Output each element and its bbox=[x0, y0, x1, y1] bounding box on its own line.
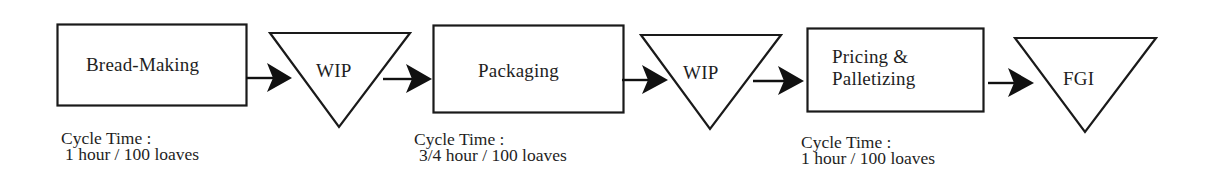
inventory-label-wip-1: WIP bbox=[316, 60, 351, 81]
flow-arrow-1 bbox=[246, 63, 292, 92]
cycle-time-value: 1 hour / 100 loaves bbox=[801, 150, 935, 166]
process-label-pricing-palletizing: Pricing & Palletizing bbox=[832, 46, 915, 90]
process-label-bread-making: Bread-Making bbox=[86, 54, 199, 75]
cycle-time-packaging: Cycle Time : 3/4 hour / 100 loaves bbox=[414, 131, 567, 163]
inventory-label-wip-2: WIP bbox=[683, 62, 718, 83]
cycle-time-bread-making: Cycle Time : 1 hour / 100 loaves bbox=[61, 130, 199, 162]
cycle-time-value: 1 hour / 100 loaves bbox=[61, 146, 199, 162]
cycle-time-value: 3/4 hour / 100 loaves bbox=[414, 147, 567, 163]
cycle-time-pricing-palletizing: Cycle Time : 1 hour / 100 loaves bbox=[801, 134, 935, 166]
inventory-label-fgi: FGI bbox=[1063, 68, 1094, 89]
process-label-packaging: Packaging bbox=[478, 60, 559, 81]
diagram-shapes bbox=[0, 0, 1210, 194]
flow-arrow-3 bbox=[622, 65, 668, 94]
flow-arrow-5 bbox=[988, 68, 1034, 97]
flow-arrow-4 bbox=[753, 66, 804, 95]
process-flow-diagram: Bread-Making WIP Packaging WIP Pricing &… bbox=[0, 0, 1210, 194]
process-label-line-2: Palletizing bbox=[832, 68, 915, 90]
flow-arrow-2 bbox=[383, 64, 432, 93]
process-label-line-1: Pricing & bbox=[832, 46, 915, 68]
